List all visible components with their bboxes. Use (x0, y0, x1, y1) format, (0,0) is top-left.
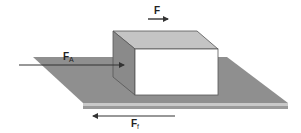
friction-force-label: Ff (131, 119, 139, 130)
force-diagram: F FA Ff (0, 0, 301, 133)
applied-force-label: F (154, 6, 160, 17)
force-a-label: FA (63, 52, 74, 63)
diagram-graphic (0, 0, 301, 133)
block (113, 31, 218, 95)
